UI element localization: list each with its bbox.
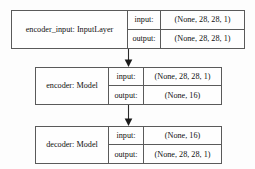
node-decoder-output-value: (None, 28, 28, 1): [144, 145, 221, 163]
node-decoder-input-value: (None, 16): [144, 127, 221, 144]
node-encoder-input-label: encoder_input: InputLayer: [12, 11, 128, 48]
node-encoder-output-row: output: (None, 16): [109, 86, 221, 104]
node-encoder-input-input-key: input:: [128, 11, 161, 29]
node-encoder-input-output-row: output: (None, 28, 28, 1): [128, 30, 244, 49]
node-encoder-input-input-value: (None, 28, 28, 1): [161, 11, 244, 29]
node-encoder-input-row: input: (None, 28, 28, 1): [109, 68, 221, 86]
node-encoder-output-value: (None, 16): [144, 86, 221, 104]
node-encoder-input-key: input:: [109, 68, 144, 85]
node-encoder-input-input-row: input: (None, 28, 28, 1): [128, 11, 244, 30]
node-encoder-io-table: input: (None, 28, 28, 1) output: (None, …: [109, 68, 221, 104]
node-encoder-output-key: output:: [109, 86, 144, 104]
node-decoder-output-row: output: (None, 28, 28, 1): [109, 145, 221, 163]
node-decoder-input-row: input: (None, 16): [109, 127, 221, 145]
down-arrow-icon: [125, 60, 133, 68]
node-decoder-label: decoder: Model: [36, 127, 109, 163]
down-arrow-icon: [125, 119, 133, 127]
node-encoder-input-io-table: input: (None, 28, 28, 1) output: (None, …: [128, 11, 244, 48]
edge-encoder-input-to-encoder: [125, 49, 133, 67]
node-encoder-input-output-value: (None, 28, 28, 1): [161, 30, 244, 49]
node-encoder-input[interactable]: encoder_input: InputLayer input: (None, …: [11, 10, 245, 49]
node-encoder[interactable]: encoder: Model input: (None, 28, 28, 1) …: [35, 67, 222, 105]
diagram-canvas: encoder_input: InputLayer input: (None, …: [0, 0, 255, 169]
node-encoder-label: encoder: Model: [36, 68, 109, 104]
node-encoder-input-output-key: output:: [128, 30, 161, 49]
node-decoder[interactable]: decoder: Model input: (None, 16) output:…: [35, 126, 222, 164]
node-encoder-input-value: (None, 28, 28, 1): [144, 68, 221, 85]
node-decoder-io-table: input: (None, 16) output: (None, 28, 28,…: [109, 127, 221, 163]
node-decoder-input-key: input:: [109, 127, 144, 144]
node-decoder-output-key: output:: [109, 145, 144, 163]
edge-encoder-to-decoder: [125, 105, 133, 126]
